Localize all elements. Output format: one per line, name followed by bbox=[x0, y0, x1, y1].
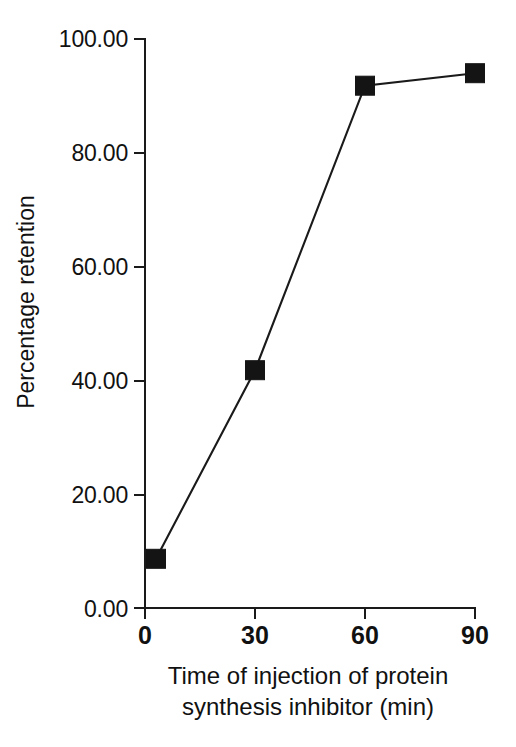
data-point-marker bbox=[356, 76, 375, 95]
x-axis-title: Time of injection of protein synthesis i… bbox=[118, 660, 498, 722]
series-markers bbox=[147, 64, 485, 569]
data-point-marker bbox=[147, 549, 166, 568]
data-point-marker bbox=[246, 361, 265, 380]
data-point-marker bbox=[466, 64, 485, 83]
x-axis-title-line-2: synthesis inhibitor (min) bbox=[118, 691, 498, 722]
series-line bbox=[156, 73, 475, 559]
chart-figure: Percentage retention 100.00 80.00 60.00 … bbox=[0, 0, 516, 747]
x-axis-title-line-1: Time of injection of protein bbox=[118, 660, 498, 691]
scan-bleed-text bbox=[0, 736, 516, 747]
plot-area bbox=[0, 0, 516, 747]
